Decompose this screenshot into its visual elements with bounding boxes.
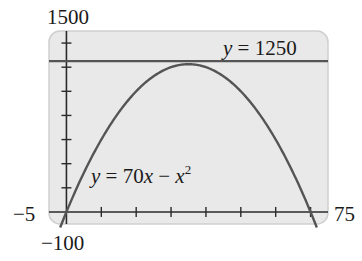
ymin-label: −100	[41, 231, 84, 255]
hline-label-rest: = 1250	[232, 36, 296, 60]
xmin-label: −5	[13, 202, 35, 226]
xmax-label: 75	[334, 202, 355, 226]
hline-label: y = 1250	[221, 36, 297, 60]
ymax-label: 1500	[47, 5, 89, 29]
graphing-calculator-screen: 1500 −100 −5 75 y = 1250 y = 70x − x2	[0, 0, 362, 261]
curve-label: y = 70x − x2	[89, 162, 191, 188]
